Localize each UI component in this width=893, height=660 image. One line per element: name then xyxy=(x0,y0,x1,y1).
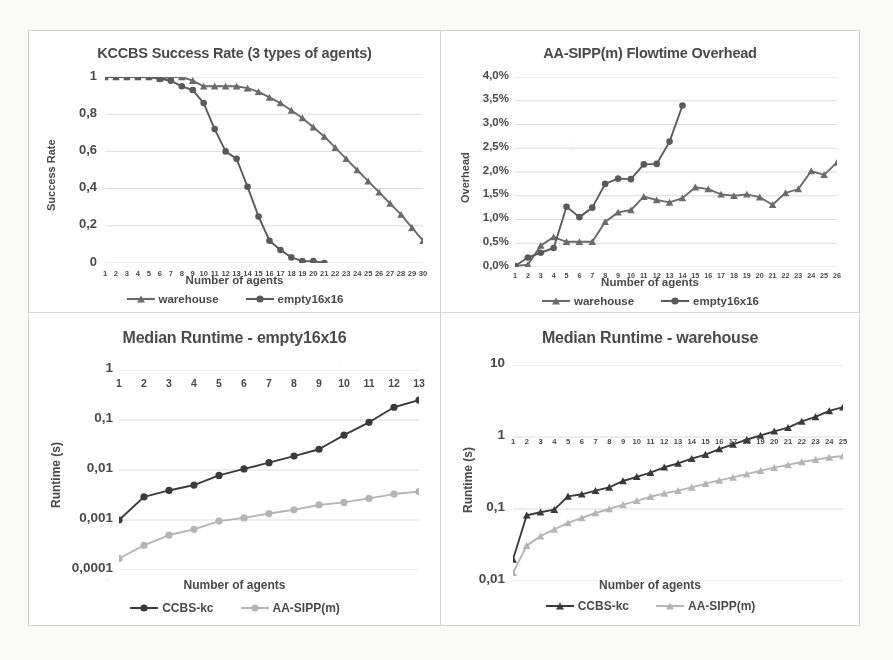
legend-label: warehouse xyxy=(574,295,634,307)
y-tick-label: 4,0% xyxy=(463,69,509,81)
plot-svg xyxy=(515,77,837,267)
plot-area xyxy=(515,77,837,267)
plot-svg xyxy=(105,77,423,263)
y-axis-label: Success Rate xyxy=(45,139,57,211)
legend-label: empty16x16 xyxy=(278,293,344,305)
plot-svg xyxy=(513,365,843,581)
chart-title: AA-SIPP(m) Flowtime Overhead xyxy=(441,45,859,61)
y-tick-label: 0,1 xyxy=(57,410,113,425)
legend-item[interactable]: warehouse xyxy=(126,293,219,305)
legend-triangle-marker-icon xyxy=(541,295,571,307)
y-tick-label: 2,0% xyxy=(463,164,509,176)
chart-panel-median-runtime-empty: Median Runtime - empty16x16 Runtime (s) … xyxy=(29,313,441,625)
y-tick-label: 1,0% xyxy=(463,211,509,223)
legend-item[interactable]: CCBS-kc xyxy=(129,601,213,615)
chart-panel-aasipp-flowtime-overhead: AA-SIPP(m) Flowtime Overhead Overhead 0,… xyxy=(441,31,859,313)
y-tick-label: 0,0001 xyxy=(57,560,113,575)
y-tick-label: 0,6 xyxy=(59,142,97,157)
legend-circle-marker-icon xyxy=(660,295,690,307)
chart-legend: warehouseempty16x16 xyxy=(29,293,440,305)
y-tick-label: 0,5% xyxy=(463,235,509,247)
legend-triangle-marker-icon xyxy=(126,293,156,305)
y-tick-label: 0,4 xyxy=(59,179,97,194)
chart-title: KCCBS Success Rate (3 types of agents) xyxy=(29,45,440,61)
y-tick-label: 0,0% xyxy=(463,259,509,271)
chart-panel-kccbs-success-rate: KCCBS Success Rate (3 types of agents) S… xyxy=(29,31,441,313)
legend-triangle-marker-icon xyxy=(655,600,685,612)
legend-label: AA-SIPP(m) xyxy=(273,601,340,615)
y-tick-label: 1,5% xyxy=(463,187,509,199)
chart-title: Median Runtime - empty16x16 xyxy=(29,329,440,347)
legend-label: CCBS-kc xyxy=(578,599,629,613)
legend-circle-marker-icon xyxy=(129,602,159,614)
chart-panel-median-runtime-warehouse: Median Runtime - warehouse Runtime (s) 0… xyxy=(441,313,859,625)
y-tick-label: 0,2 xyxy=(59,216,97,231)
y-tick-label: 0,001 xyxy=(57,510,113,525)
plot-area xyxy=(513,365,843,581)
y-tick-label: 1 xyxy=(59,68,97,83)
y-tick-label: 1 xyxy=(57,360,113,375)
chart-legend: warehouseempty16x16 xyxy=(441,295,859,307)
chart-legend: CCBS-kcAA-SIPP(m) xyxy=(29,601,440,615)
plot-area xyxy=(119,370,419,570)
legend-item[interactable]: empty16x16 xyxy=(660,295,759,307)
legend-circle-marker-icon xyxy=(245,293,275,305)
legend-item[interactable]: warehouse xyxy=(541,295,634,307)
chart-title: Median Runtime - warehouse xyxy=(441,329,859,347)
legend-label: CCBS-kc xyxy=(162,601,213,615)
figure-sheet: KCCBS Success Rate (3 types of agents) S… xyxy=(28,30,860,626)
legend-circle-marker-icon xyxy=(240,602,270,614)
y-tick-label: 0,1 xyxy=(455,499,505,514)
legend-label: empty16x16 xyxy=(693,295,759,307)
legend-item[interactable]: AA-SIPP(m) xyxy=(655,599,755,613)
plot-area xyxy=(105,77,423,263)
y-tick-label: 0,01 xyxy=(57,460,113,475)
y-tick-label: 10 xyxy=(455,355,505,370)
legend-label: warehouse xyxy=(159,293,219,305)
legend-item[interactable]: AA-SIPP(m) xyxy=(240,601,340,615)
legend-item[interactable]: empty16x16 xyxy=(245,293,344,305)
legend-triangle-marker-icon xyxy=(545,600,575,612)
y-tick-label: 0,8 xyxy=(59,105,97,120)
y-tick-label: 3,0% xyxy=(463,116,509,128)
x-axis-label: Number of agents xyxy=(441,276,859,288)
legend-item[interactable]: CCBS-kc xyxy=(545,599,629,613)
y-tick-label: 3,5% xyxy=(463,92,509,104)
y-tick-label: 0 xyxy=(59,254,97,269)
x-axis-label: Number of agents xyxy=(29,274,440,286)
x-axis-label: Number of agents xyxy=(441,578,859,592)
legend-label: AA-SIPP(m) xyxy=(688,599,755,613)
y-tick-label: 2,5% xyxy=(463,140,509,152)
y-tick-label: 1 xyxy=(455,427,505,442)
x-axis-label: Number of agents xyxy=(29,578,440,592)
plot-svg xyxy=(119,370,419,570)
chart-legend: CCBS-kcAA-SIPP(m) xyxy=(441,599,859,613)
